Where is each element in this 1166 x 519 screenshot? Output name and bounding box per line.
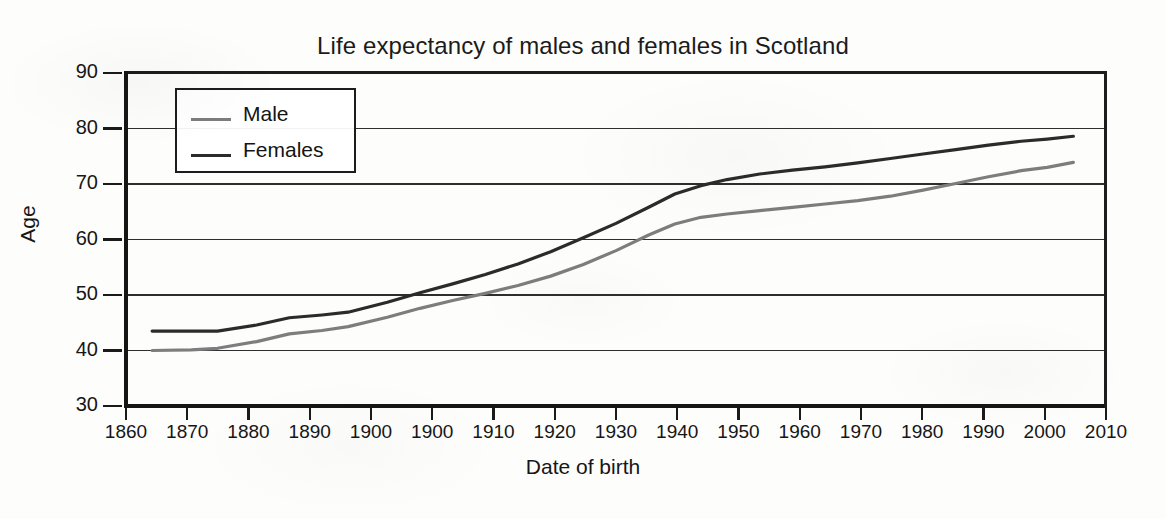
y-tick-mark — [103, 405, 122, 407]
x-tick-mark — [799, 407, 801, 420]
x-tick-mark — [554, 407, 556, 420]
x-tick-mark — [982, 407, 984, 420]
x-tick-mark — [921, 407, 923, 420]
x-tick-mark — [370, 407, 372, 420]
x-axis-title: Date of birth — [0, 455, 1166, 479]
y-tick-label: 40 — [52, 338, 98, 361]
y-tick-mark — [103, 294, 122, 296]
y-tick-mark — [103, 238, 122, 240]
legend: MaleFemales — [175, 88, 356, 173]
x-tick-label: 1940 — [642, 421, 712, 443]
x-tick-label: 1890 — [275, 421, 345, 443]
x-tick-label: 1990 — [949, 421, 1019, 443]
x-tick-label: 2010 — [1071, 421, 1141, 443]
y-tick-label: 90 — [52, 60, 98, 83]
x-tick-mark — [186, 407, 188, 420]
x-tick-mark — [1105, 407, 1107, 420]
x-tick-label: 1870 — [152, 421, 222, 443]
y-tick-label: 50 — [52, 282, 98, 305]
x-tick-label: 1920 — [520, 421, 590, 443]
x-tick-label: 1880 — [214, 421, 284, 443]
legend-swatch-male — [191, 118, 231, 121]
x-tick-mark — [860, 407, 862, 420]
x-tick-mark — [492, 407, 494, 420]
y-tick-mark — [103, 183, 122, 185]
y-tick-mark — [103, 127, 122, 129]
x-tick-label: 1910 — [459, 421, 529, 443]
x-tick-label: 1970 — [826, 421, 896, 443]
x-tick-mark — [1044, 407, 1046, 420]
x-tick-label: 1980 — [887, 421, 957, 443]
y-axis-title: Age — [16, 184, 40, 264]
y-tick-label: 70 — [52, 171, 98, 194]
x-tick-label: 1930 — [581, 421, 651, 443]
x-tick-mark — [431, 407, 433, 420]
x-tick-mark — [125, 407, 127, 420]
x-tick-mark — [309, 407, 311, 420]
x-tick-label: 1950 — [704, 421, 774, 443]
y-tick-label: 30 — [52, 393, 98, 416]
chart-title: Life expectancy of males and females in … — [0, 32, 1166, 60]
x-tick-mark — [615, 407, 617, 420]
x-tick-label: 2000 — [1010, 421, 1080, 443]
chart-page: Life expectancy of males and females in … — [0, 0, 1166, 519]
x-tick-mark — [737, 407, 739, 420]
y-tick-mark — [103, 72, 122, 74]
legend-swatch-females — [191, 154, 231, 157]
x-tick-label: 1900 — [397, 421, 467, 443]
legend-label: Females — [243, 138, 324, 162]
y-tick-label: 80 — [52, 116, 98, 139]
legend-label: Male — [243, 102, 289, 126]
x-tick-mark — [247, 407, 249, 420]
series-line-male — [152, 162, 1073, 350]
x-tick-mark — [676, 407, 678, 420]
y-tick-mark — [103, 349, 122, 351]
x-tick-label: 1900 — [336, 421, 406, 443]
x-tick-label: 1960 — [765, 421, 835, 443]
x-tick-label: 1860 — [91, 421, 161, 443]
y-tick-label: 60 — [52, 227, 98, 250]
